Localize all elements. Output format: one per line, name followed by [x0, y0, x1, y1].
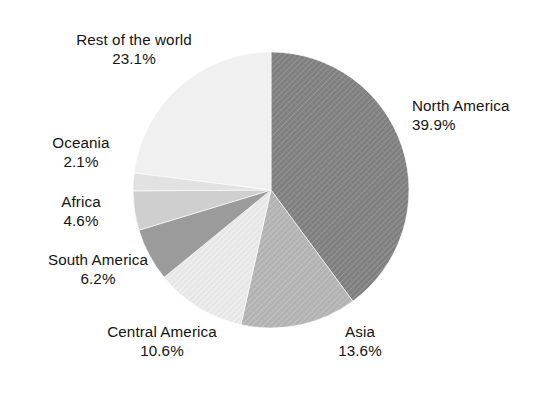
pie-label-percent: 4.6% — [6, 211, 156, 230]
pie-label-name: North America — [412, 96, 560, 115]
pie-label-percent: 13.6% — [300, 341, 420, 360]
pie-label-north-america: North America 39.9% — [412, 96, 560, 135]
pie-label-name: Asia — [300, 322, 420, 341]
pie-label-name: Oceania — [6, 133, 156, 152]
pie-label-percent: 6.2% — [8, 269, 188, 288]
pie-label-central-america: Central America 10.6% — [62, 322, 262, 361]
pie-label-percent: 23.1% — [24, 49, 244, 68]
pie-label-percent: 39.9% — [412, 115, 560, 134]
pie-label-oceania: Oceania 2.1% — [6, 133, 156, 172]
pie-label-south-america: South America 6.2% — [8, 250, 188, 289]
pie-label-name: Central America — [62, 322, 262, 341]
pie-label-name: Rest of the world — [24, 30, 244, 49]
pie-label-percent: 10.6% — [62, 341, 262, 360]
pie-chart-figure: Rest of the world 23.1% Oceania 2.1% Afr… — [0, 0, 560, 399]
pie-label-asia: Asia 13.6% — [300, 322, 420, 361]
pie-label-rest-of-the-world: Rest of the world 23.1% — [24, 30, 244, 69]
pie-label-name: Africa — [6, 192, 156, 211]
pie-label-name: South America — [8, 250, 188, 269]
pie-label-africa: Africa 4.6% — [6, 192, 156, 231]
pie-label-percent: 2.1% — [6, 152, 156, 171]
